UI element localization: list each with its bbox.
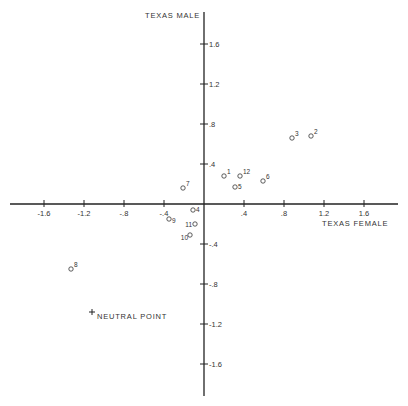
- y-tick-label: 1.2: [209, 80, 219, 89]
- point-label: 3: [295, 130, 299, 137]
- data-points: 123456789101112: [69, 128, 318, 271]
- axes: [10, 12, 398, 396]
- point-label: 2: [314, 128, 318, 135]
- point-label: 11: [185, 221, 192, 228]
- x-tick-label: .4: [241, 209, 247, 218]
- point-label: 9: [172, 217, 176, 224]
- scatter-plot: -1.6-1.2-.8-.4.4.81.21.61.61.2.8.4-.4-.8…: [0, 0, 408, 406]
- data-point-4: 4: [191, 206, 200, 213]
- circle-marker-icon: [69, 267, 73, 271]
- point-label: 1: [227, 168, 231, 175]
- neutral-point-label: NEUTRAL POINT: [97, 312, 167, 321]
- circle-marker-icon: [309, 134, 313, 138]
- y-tick-label: 1.6: [209, 40, 219, 49]
- data-point-1: 1: [222, 168, 231, 178]
- data-point-5: 5: [233, 183, 242, 190]
- data-point-6: 6: [261, 173, 270, 183]
- circle-marker-icon: [193, 222, 197, 226]
- x-tick-label: -1.2: [78, 209, 91, 218]
- data-point-3: 3: [290, 130, 299, 140]
- x-tick-label: -.8: [120, 209, 129, 218]
- data-point-10: 10: [181, 233, 192, 241]
- y-tick-label: .4: [209, 160, 215, 169]
- point-label: 12: [243, 168, 251, 175]
- y-tick-label: -1.6: [209, 360, 222, 369]
- x-tick-label: .8: [281, 209, 287, 218]
- neutral-point-annotation: NEUTRAL POINT: [89, 309, 167, 321]
- y-tick-label: -.4: [209, 240, 218, 249]
- circle-marker-icon: [238, 174, 242, 178]
- y-tick-label: -.8: [209, 280, 218, 289]
- data-point-8: 8: [69, 261, 78, 271]
- x-tick-label: 1.6: [359, 209, 369, 218]
- data-point-2: 2: [309, 128, 318, 138]
- circle-marker-icon: [181, 186, 185, 190]
- data-point-11: 11: [185, 221, 197, 228]
- y-tick-label: -1.2: [209, 320, 222, 329]
- x-axis-label: TEXAS FEMALE: [322, 219, 388, 228]
- point-label: 6: [266, 173, 270, 180]
- circle-marker-icon: [167, 217, 171, 221]
- point-label: 7: [186, 180, 190, 187]
- y-tick-label: .8: [209, 120, 215, 129]
- x-tick-label: 1.2: [319, 209, 329, 218]
- x-tick-label: -.4: [160, 209, 169, 218]
- data-point-7: 7: [181, 180, 190, 190]
- circle-marker-icon: [261, 179, 265, 183]
- circle-marker-icon: [233, 185, 237, 189]
- point-label: 5: [238, 183, 242, 190]
- circle-marker-icon: [222, 174, 226, 178]
- circle-marker-icon: [188, 233, 192, 237]
- circle-marker-icon: [290, 136, 294, 140]
- annotations: NEUTRAL POINT: [89, 309, 167, 321]
- circle-marker-icon: [191, 208, 195, 212]
- point-label: 4: [196, 206, 200, 213]
- data-point-12: 12: [238, 168, 251, 178]
- point-label: 10: [181, 234, 189, 241]
- point-label: 8: [74, 261, 78, 268]
- x-tick-label: -1.6: [38, 209, 51, 218]
- y-axis-label: TEXAS MALE: [145, 11, 200, 20]
